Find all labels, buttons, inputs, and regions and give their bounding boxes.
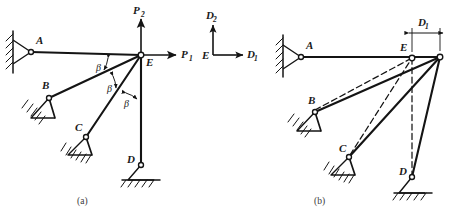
joint-d-b (410, 175, 415, 180)
member-eb-b (315, 57, 440, 112)
label-a-panel-a: A (35, 34, 43, 46)
caption-panel-a: (a) (77, 196, 88, 207)
label-e-panel-b: E (399, 41, 407, 53)
pin-support-b-a (22, 98, 55, 124)
figure-root: A B C D E P 1 P 2 β β β (a) E D 1 D 2 (0, 0, 452, 221)
label-p2: P (133, 4, 140, 16)
label-d1-dimension-sub: 1 (425, 22, 429, 31)
label-a-panel-b: A (305, 39, 313, 51)
member-ec-b (349, 57, 440, 157)
pin-support-b-b (288, 112, 321, 137)
member-ea-a (31, 52, 141, 55)
label-beta-1: β (95, 62, 101, 73)
panel-a: A B C D E P 1 P 2 β β β (a) (6, 4, 193, 207)
ghost-member-ec-b (350, 58, 412, 155)
label-d-panel-a: D (126, 153, 135, 165)
pin-support-c-a (61, 137, 92, 163)
label-beta-3: β (123, 98, 129, 109)
pin-support-d-a (121, 165, 160, 187)
label-c-panel-b: C (339, 142, 347, 154)
label-b-panel-a: B (41, 79, 49, 91)
joint-a-b (299, 55, 304, 60)
wall-support-a-b (276, 35, 301, 77)
panel-b: A B C D E D 1 (b) (276, 16, 443, 207)
joint-a-a (29, 50, 34, 55)
joint-c-a (84, 135, 89, 140)
pin-support-d-b (393, 177, 432, 200)
label-p2-sub: 2 (140, 10, 145, 19)
angle-arc-2 (113, 76, 116, 88)
joint-e-a (138, 52, 144, 58)
legend-d2-sub: 2 (212, 15, 217, 24)
legend-d1-sub: 1 (254, 54, 258, 63)
pin-support-c-b (324, 157, 355, 183)
label-p1-sub: 1 (189, 54, 193, 63)
angle-arc-1 (104, 58, 108, 70)
label-beta-2: β (106, 83, 112, 94)
joint-b-a (47, 96, 52, 101)
dimension-d1 (409, 28, 443, 52)
label-c-panel-a: C (75, 121, 83, 133)
legend-origin-label: E (201, 49, 209, 61)
member-ed-b (412, 57, 440, 177)
joint-e-original-b (409, 55, 415, 61)
wall-support-a (6, 31, 31, 73)
label-e-panel-a: E (145, 56, 153, 68)
joint-d-a (139, 163, 144, 168)
joint-b-b (313, 110, 318, 115)
joint-c-b (347, 155, 352, 160)
caption-panel-b: (b) (314, 196, 325, 207)
label-p1: P (181, 48, 188, 60)
label-d-panel-b: D (398, 165, 407, 177)
axis-legend: E D 1 D 2 (201, 9, 258, 63)
joint-e-displaced-b (437, 54, 443, 60)
label-b-panel-b: B (307, 94, 315, 106)
structural-diagram-svg: A B C D E P 1 P 2 β β β (a) E D 1 D 2 (0, 0, 452, 221)
